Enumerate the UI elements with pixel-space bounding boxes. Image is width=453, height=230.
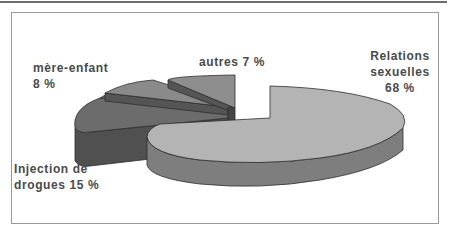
pie-chart bbox=[0, 0, 453, 230]
label-injection-drogues: Injection de drogues 15 % bbox=[14, 161, 99, 193]
label-autres: autres 7 % bbox=[199, 54, 265, 70]
label-relations-sexuelles: Relations sexuelles 68 % bbox=[360, 48, 440, 96]
label-mere-enfant: mère-enfant 8 % bbox=[33, 60, 108, 92]
